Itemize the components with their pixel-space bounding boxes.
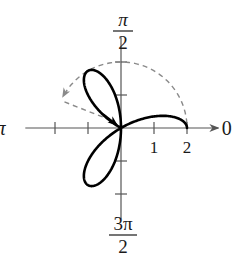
label-angle-pi: π: [0, 117, 7, 139]
label-angle-pi-over-2-denominator: 2: [118, 32, 128, 53]
polar-graph: 0 π π 2 3π 2 1 2: [0, 0, 238, 263]
tick-label-2: 2: [183, 138, 192, 157]
label-angle-pi-over-2-numerator: π: [118, 9, 128, 30]
label-angle-0: 0: [222, 117, 232, 139]
label-angle-3pi-over-2-denominator: 2: [118, 236, 128, 257]
label-angle-3pi-over-2-numerator: 3π: [113, 213, 133, 234]
dashed-arc: [63, 62, 187, 123]
tick-label-1: 1: [150, 138, 159, 157]
